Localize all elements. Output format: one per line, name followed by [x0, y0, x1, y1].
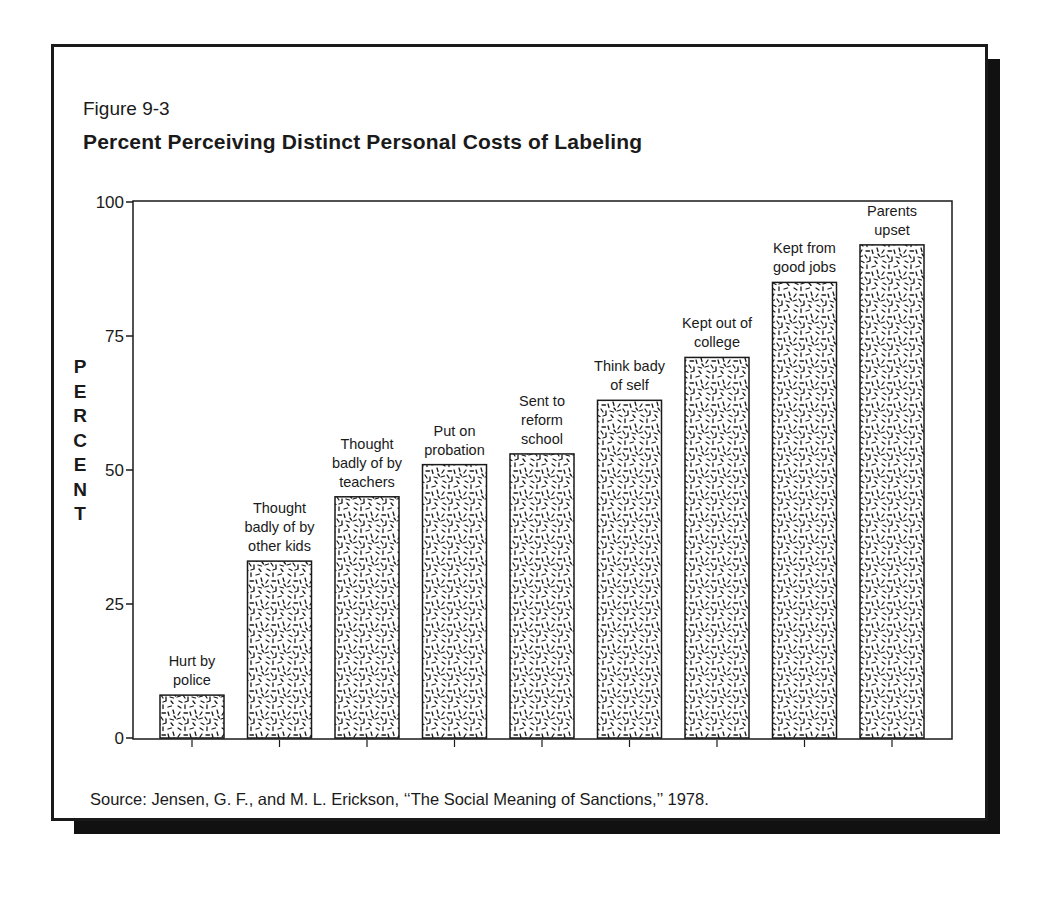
bar	[335, 497, 399, 738]
source-note: Source: Jensen, G. F., and M. L. Erickso…	[90, 790, 709, 809]
y-tick-label: 0	[115, 729, 124, 748]
bar-label: Kept out of	[682, 315, 753, 331]
y-axis-ticks: 0255075100	[96, 193, 133, 748]
bar	[248, 561, 312, 738]
bar	[423, 465, 487, 738]
bar-label: of self	[610, 377, 650, 393]
bar-label: other kids	[248, 538, 311, 554]
y-tick-label: 75	[105, 327, 124, 346]
bar-label: Think bady	[594, 358, 666, 374]
bar-label: good jobs	[773, 259, 836, 275]
bar-label: Parents	[867, 203, 917, 219]
y-tick-label: 50	[105, 461, 124, 480]
bar	[685, 357, 749, 738]
bar-label: police	[173, 672, 211, 688]
bar-label: school	[521, 431, 563, 447]
bar	[160, 695, 224, 738]
bar-label: probation	[424, 442, 484, 458]
bar-label: Thought	[340, 436, 393, 452]
y-tick-label: 100	[96, 193, 124, 212]
x-axis-ticks	[192, 740, 892, 747]
bar	[598, 400, 662, 738]
bar-label: college	[694, 334, 740, 350]
bar-label: upset	[874, 222, 909, 238]
bars	[160, 245, 924, 738]
y-tick-label: 25	[105, 595, 124, 614]
bar	[773, 282, 837, 738]
bar-label: Hurt by	[169, 653, 216, 669]
bar-label: Put on	[434, 423, 476, 439]
bar-label: badly of by	[332, 455, 403, 471]
bar-label: Kept from	[773, 240, 836, 256]
bar-label: Sent to	[519, 393, 565, 409]
bar-chart: 0255075100 Hurt bypoliceThoughtbadly of …	[0, 0, 1061, 912]
bar	[510, 454, 574, 738]
bar-label: Thought	[253, 500, 306, 516]
bar-label: badly of by	[244, 519, 315, 535]
bar-label: reform	[521, 412, 563, 428]
bar-label: teachers	[339, 474, 395, 490]
bar	[860, 245, 924, 738]
